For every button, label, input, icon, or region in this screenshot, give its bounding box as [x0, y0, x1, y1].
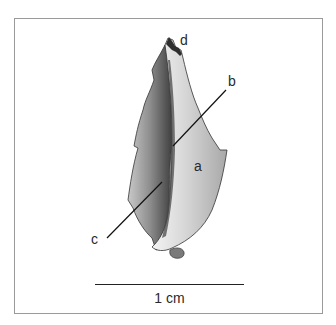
label-a: a	[194, 159, 202, 173]
bone-left-face	[128, 45, 172, 250]
bone-illustration	[0, 0, 336, 325]
scale-bar-label: 1 cm	[95, 290, 244, 306]
scale-bar	[95, 284, 244, 285]
label-d: d	[180, 33, 188, 47]
label-c: c	[91, 232, 98, 246]
bone-bottom-knob	[170, 248, 184, 258]
label-b: b	[228, 74, 236, 88]
